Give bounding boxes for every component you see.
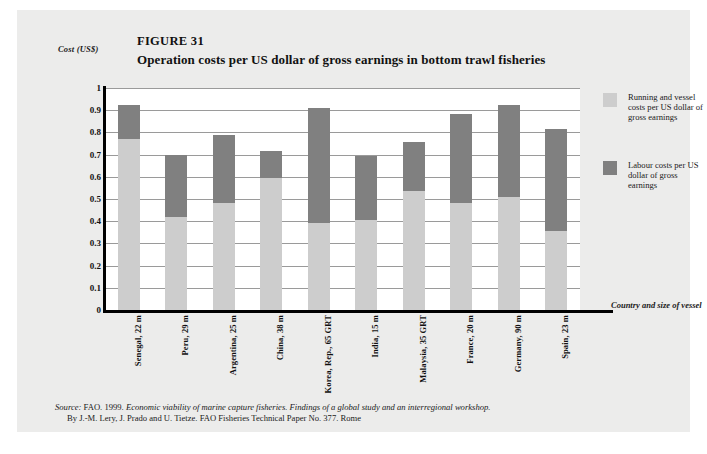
source-line-2: By J.-M. Lery, J. Prado and U. Tietze. F… (67, 413, 655, 424)
x-axis-tick-label: Senegal, 22 m (133, 315, 143, 366)
bar-group[interactable] (498, 88, 520, 310)
bar-segment-labour-costs[interactable] (355, 156, 377, 220)
x-axis-tick-label: Germany, 90 m (513, 315, 523, 372)
bar-segment-running-costs[interactable] (545, 231, 567, 310)
bar-group[interactable] (213, 88, 235, 310)
bar-segment-labour-costs[interactable] (213, 135, 235, 204)
bar-segment-labour-costs[interactable] (308, 108, 330, 223)
bar-group[interactable] (355, 88, 377, 310)
chart-legend: Running and vessel costs per US dollar o… (603, 92, 707, 228)
bar-segment-labour-costs[interactable] (450, 114, 472, 204)
x-axis-title: Country and size of vessel (611, 300, 702, 310)
y-axis-tick-label: 0.7 (65, 150, 101, 160)
source-label: Source: (55, 402, 81, 412)
legend-swatch-running-costs (603, 93, 617, 107)
x-axis-tick-label: China, 38 m (275, 315, 285, 360)
figure-number: FIGURE 31 (137, 34, 204, 49)
bar-group[interactable] (450, 88, 472, 310)
bar-segment-labour-costs[interactable] (498, 105, 520, 197)
y-axis-tick-label: 0.3 (65, 238, 101, 248)
x-axis-line (103, 310, 613, 313)
bar-segment-labour-costs[interactable] (165, 155, 187, 217)
y-axis-tick-label: 0.4 (65, 216, 101, 226)
y-axis-tick-label: 0.6 (65, 172, 101, 182)
bars-layer (105, 88, 580, 310)
y-axis-title: Cost (US$) (58, 44, 99, 54)
y-axis-tick-label: 0.5 (65, 194, 101, 204)
bar-group[interactable] (545, 88, 567, 310)
x-axis-tick-label: Malaysia, 35 GRT (418, 315, 428, 383)
y-axis-tick-label: 0 (65, 305, 101, 315)
x-axis-tick-label: Argentina, 25 m (228, 315, 238, 375)
source-line-1: Source: FAO. 1999. Economic viability of… (55, 402, 655, 413)
bar-segment-running-costs[interactable] (450, 203, 472, 310)
figure-panel: Cost (US$) FIGURE 31 Operation costs per… (17, 10, 690, 432)
source-note: Source: FAO. 1999. Economic viability of… (55, 402, 655, 424)
x-axis-labels: Senegal, 22 mPeru, 29 mArgentina, 25 mCh… (105, 315, 580, 395)
x-axis-tick-label: Peru, 29 m (180, 315, 190, 355)
bar-segment-labour-costs[interactable] (403, 142, 425, 191)
bar-segment-running-costs[interactable] (165, 217, 187, 310)
figure-title: Operation costs per US dollar of gross e… (137, 52, 545, 68)
x-axis-tick-label: Korea, Rep., 65 GRT (323, 315, 333, 393)
bar-group[interactable] (403, 88, 425, 310)
bar-segment-running-costs[interactable] (498, 197, 520, 310)
y-axis-tick-label: 0.2 (65, 261, 101, 271)
bar-group[interactable] (165, 88, 187, 310)
bar-group[interactable] (118, 88, 140, 310)
x-axis-tick-label: India, 15 m (370, 315, 380, 357)
bar-segment-running-costs[interactable] (403, 191, 425, 310)
legend-entry[interactable]: Labour costs per US dollar of gross earn… (603, 160, 707, 206)
y-axis-ticks: 00.10.20.30.40.50.60.70.80.91 (59, 88, 101, 310)
legend-label: Running and vessel costs per US dollar o… (628, 92, 707, 123)
source-citation-a: FAO. 1999. (81, 402, 125, 412)
bar-group[interactable] (260, 88, 282, 310)
bar-segment-labour-costs[interactable] (260, 151, 282, 178)
y-axis-tick-label: 0.1 (65, 283, 101, 293)
bar-segment-running-costs[interactable] (118, 139, 140, 310)
source-title-italic: Economic viability of marine capture fis… (126, 402, 491, 412)
y-axis-tick-label: 1 (65, 83, 101, 93)
bar-segment-running-costs[interactable] (355, 220, 377, 310)
x-axis-tick-label: France, 20 m (465, 315, 475, 364)
y-axis-line (103, 86, 106, 312)
bar-segment-labour-costs[interactable] (545, 129, 567, 231)
bar-segment-running-costs[interactable] (308, 223, 330, 310)
legend-label: Labour costs per US dollar of gross earn… (628, 160, 707, 191)
x-axis-tick-label: Spain, 23 m (560, 315, 570, 359)
y-axis-tick-label: 0.8 (65, 127, 101, 137)
plot-area (105, 88, 580, 310)
bar-segment-running-costs[interactable] (213, 203, 235, 310)
bar-group[interactable] (308, 88, 330, 310)
y-axis-tick-label: 0.9 (65, 105, 101, 115)
bar-segment-labour-costs[interactable] (118, 105, 140, 139)
bar-segment-running-costs[interactable] (260, 178, 282, 310)
legend-entry[interactable]: Running and vessel costs per US dollar o… (603, 92, 707, 138)
legend-swatch-labour-costs (603, 161, 617, 175)
